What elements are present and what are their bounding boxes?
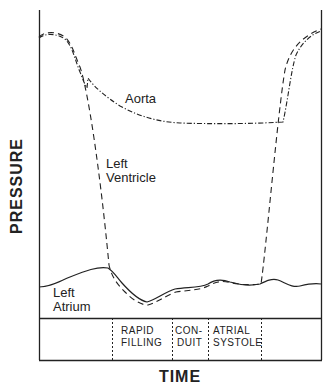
left-ventricle-label-line2: Ventricle — [106, 170, 156, 185]
aorta-curve — [39, 31, 321, 124]
phase-atrial-systole-line2: SYSTOLE — [213, 337, 262, 348]
left-ventricle-curve — [39, 29, 321, 305]
left-atrium-label-line1: Left — [53, 285, 75, 300]
phase-rapid-filling-line2: FILLING — [121, 337, 162, 348]
left-atrium-label-line2: Atrium — [53, 299, 91, 314]
phase-conduit-line2: DUIT — [177, 337, 202, 348]
y-axis-title: PRESSURE — [8, 138, 25, 234]
left-ventricle-label-line1: Left — [106, 156, 128, 171]
pressure-time-diagram: Aorta Left Ventricle Left Atrium RAPID F… — [0, 0, 333, 389]
phase-rapid-filling-line1: RAPID — [121, 325, 154, 336]
left-atrium-curve — [39, 268, 321, 302]
phase-atrial-systole-line1: ATRIAL — [213, 325, 250, 336]
phase-conduit-line1: CON- — [175, 325, 203, 336]
x-axis-title: TIME — [159, 368, 201, 385]
aorta-label: Aorta — [125, 91, 157, 106]
